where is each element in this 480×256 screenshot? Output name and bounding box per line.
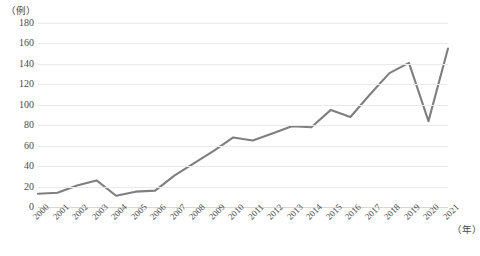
plot-area <box>38 23 448 207</box>
gridline <box>38 84 448 85</box>
y-axis-tick-120: 120 <box>0 79 34 89</box>
gridline <box>38 125 448 126</box>
y-axis-tick-0: 0 <box>0 202 34 212</box>
y-axis-tick-180: 180 <box>0 18 34 28</box>
gridline <box>38 43 448 44</box>
gridline <box>38 187 448 188</box>
y-axis-tick-20: 20 <box>0 182 34 192</box>
y-axis-tick-80: 80 <box>0 120 34 130</box>
y-axis-tick-160: 160 <box>0 38 34 48</box>
y-axis-unit-label: （例） <box>6 3 36 17</box>
gridline <box>38 23 448 24</box>
y-axis-tick-40: 40 <box>0 161 34 171</box>
data-series-line <box>38 23 448 207</box>
gridline <box>38 146 448 147</box>
x-axis-tick-labels: 2000200120022003200420052006200720082009… <box>38 209 448 255</box>
y-axis-tick-100: 100 <box>0 100 34 110</box>
x-axis-unit-label: （年） <box>452 222 480 236</box>
gridline <box>38 166 448 167</box>
y-axis-tick-140: 140 <box>0 59 34 69</box>
x-axis-tick-2000: 2000 <box>32 203 51 222</box>
y-axis-tick-60: 60 <box>0 141 34 151</box>
gridline <box>38 105 448 106</box>
y-axis-tick-labels: 180160140120100806040200 <box>0 23 34 207</box>
gridline <box>38 64 448 65</box>
